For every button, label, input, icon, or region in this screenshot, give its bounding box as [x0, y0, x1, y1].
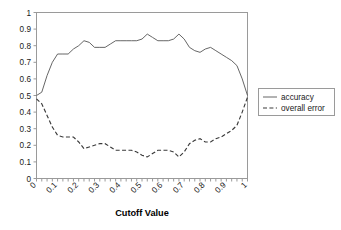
x-axis-ticks [37, 179, 248, 182]
y-tick-label: 0.7 [20, 58, 32, 67]
legend-label-overall-error: overall error [281, 104, 325, 113]
y-tick-label: 0.3 [20, 125, 32, 134]
y-tick-label: 0.4 [20, 108, 32, 117]
x-tick-label: 0.4 [108, 180, 123, 195]
y-tick-label: 0.5 [20, 92, 32, 101]
series-accuracy [37, 34, 248, 95]
x-tick-label: 0.7 [171, 180, 186, 195]
x-tick-label: 0.3 [87, 180, 102, 195]
legend-label-accuracy: accuracy [281, 93, 315, 102]
x-tick-label: 0.1 [45, 180, 60, 195]
x-tick-label: 0.6 [150, 180, 165, 195]
x-tick-label: 0.9 [213, 180, 228, 195]
plot-frame [37, 13, 248, 179]
y-tick-label: 0.1 [20, 158, 32, 167]
x-axis-tick-labels: 00.10.20.30.40.50.60.70.80.91 [28, 180, 249, 195]
y-axis-tick-labels: 00.10.20.30.40.50.60.70.80.91 [20, 9, 32, 184]
y-tick-label: 0.8 [20, 42, 32, 51]
series-overall-error [37, 97, 248, 157]
x-tick-label: 0.2 [66, 180, 81, 195]
x-axis-title: Cutoff Value [115, 208, 169, 218]
y-tick-label: 0.6 [20, 75, 32, 84]
line-chart: 00.10.20.30.40.50.60.70.80.91 00.10.20.3… [0, 0, 341, 230]
x-tick-label: 0.8 [192, 180, 207, 195]
y-tick-label: 0.2 [20, 141, 32, 150]
y-tick-label: 0.9 [20, 25, 32, 34]
data-series-group [37, 34, 248, 157]
x-tick-label: 1 [239, 180, 249, 190]
x-tick-label: 0 [28, 180, 38, 190]
x-tick-label: 0.5 [129, 180, 144, 195]
chart-legend: accuracy overall error [259, 89, 335, 116]
y-tick-label: 1 [26, 9, 31, 18]
chart-figure: 00.10.20.30.40.50.60.70.80.91 00.10.20.3… [0, 0, 341, 230]
